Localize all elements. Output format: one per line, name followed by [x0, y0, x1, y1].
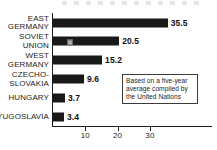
x-tick-label: 10	[81, 131, 90, 140]
value-label: 20.5	[122, 36, 139, 46]
category-label: CZECHO- SLOVAKIA	[0, 71, 49, 88]
bar	[53, 56, 102, 65]
x-tick-label: 30	[145, 131, 154, 140]
bar-row: EAST GERMANY35.5	[0, 13, 217, 32]
annotation-text: Based on a five-year average compiled by…	[126, 77, 194, 102]
category-label: WEST GERMANY	[0, 52, 49, 69]
value-label: 35.5	[171, 18, 188, 28]
bar	[53, 75, 84, 84]
category-label: SOVIET UNION	[0, 33, 49, 50]
category-label: HUNGARY	[0, 94, 49, 102]
bar	[53, 94, 65, 103]
bar-speck-artifact	[67, 39, 73, 45]
value-label: 9.6	[87, 74, 99, 84]
bar-row: YUGOSLAVIA3.4	[0, 108, 217, 127]
bar-row: SOVIET UNION20.5	[0, 32, 217, 51]
category-label: YUGOSLAVIA	[0, 113, 49, 121]
bar	[53, 37, 119, 46]
bar	[53, 18, 168, 27]
value-label: 3.7	[68, 93, 80, 103]
category-label: EAST GERMANY	[0, 14, 49, 31]
value-label: 3.4	[67, 112, 79, 122]
x-tick-label: 20	[113, 131, 122, 140]
annotation-box: Based on a five-year average compiled by…	[122, 74, 198, 104]
bar-chart: EAST GERMANY35.5SOVIET UNION20.5WEST GER…	[0, 0, 217, 150]
bar-row: WEST GERMANY15.2	[0, 51, 217, 70]
value-label: 15.2	[105, 55, 122, 65]
bar	[53, 113, 64, 122]
plot-area: EAST GERMANY35.5SOVIET UNION20.5WEST GER…	[0, 0, 217, 150]
